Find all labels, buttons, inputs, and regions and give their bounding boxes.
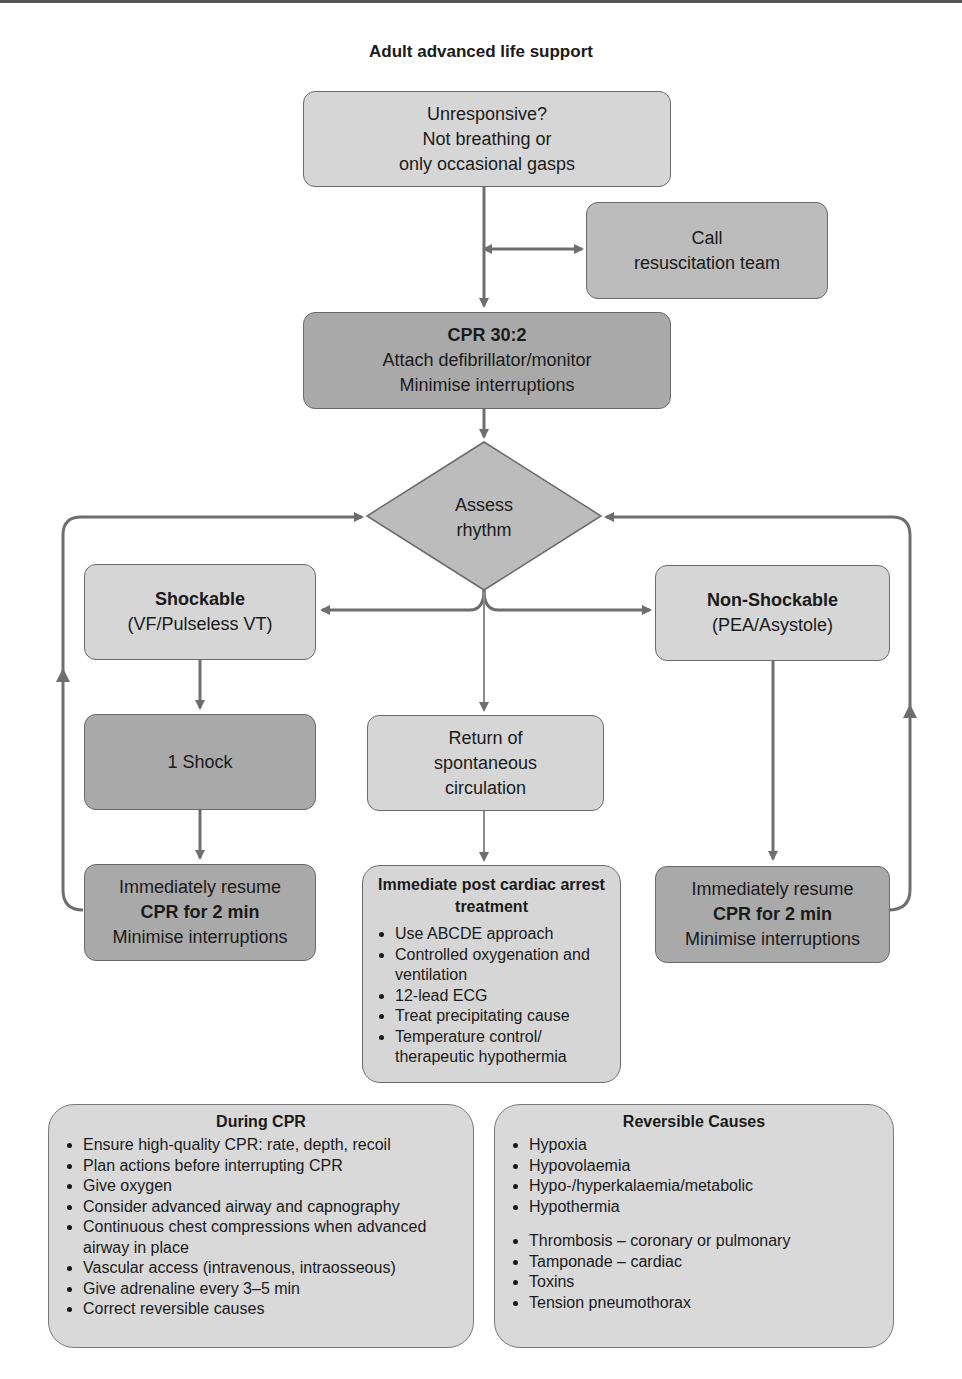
call-team-box: Call resuscitation team (586, 202, 828, 299)
list-item: Hypoxia (529, 1135, 881, 1156)
assess-rhythm-label: Assess rhythm (424, 493, 544, 543)
cpr-heading: CPR 30:2 (447, 323, 526, 348)
list-item: Consider advanced airway and capnography (83, 1197, 461, 1218)
shockable-sub: (VF/Pulseless VT) (127, 612, 272, 637)
unresponsive-line-3: only occasional gasps (399, 152, 575, 177)
call-team-line-1: Call (691, 226, 722, 251)
assess-line-1: Assess (424, 493, 544, 518)
cpr-line-1: Attach defibrillator/monitor (382, 348, 591, 373)
list-item: Use ABCDE approach (395, 924, 610, 945)
rosc-line-1: Return of (448, 726, 522, 751)
list-item: Give adrenaline every 3–5 min (83, 1279, 461, 1300)
assess-line-2: rhythm (424, 518, 544, 543)
list-item: Tension pneumothorax (529, 1293, 881, 1314)
list-item: Give oxygen (83, 1176, 461, 1197)
list-item: Vascular access (intravenous, intraosseo… (83, 1258, 461, 1279)
unresponsive-line-1: Unresponsive? (427, 102, 547, 127)
list-item: Temperature control/ therapeutic hypothe… (395, 1027, 610, 1068)
during-cpr-list: Ensure high-quality CPR: rate, depth, re… (61, 1135, 461, 1320)
resume-right-line-1: Immediately resume (691, 877, 853, 902)
unresponsive-box: Unresponsive? Not breathing or only occa… (303, 91, 671, 187)
non-shockable-heading: Non-Shockable (707, 588, 838, 613)
list-item: Toxins (529, 1272, 881, 1293)
post-arrest-list: Use ABCDE approach Controlled oxygenatio… (373, 924, 610, 1068)
list-item: Hypovolaemia (529, 1156, 881, 1177)
resume-left-heading: CPR for 2 min (140, 900, 259, 925)
resume-cpr-right-box: Immediately resume CPR for 2 min Minimis… (655, 866, 890, 963)
list-item: Treat precipitating cause (395, 1006, 610, 1027)
non-shockable-box: Non-Shockable (PEA/Asystole) (655, 565, 890, 661)
list-item: Continuous chest compressions when advan… (83, 1217, 461, 1258)
resume-left-line-3: Minimise interruptions (112, 925, 287, 950)
list-item: Thrombosis – coronary or pulmonary (529, 1231, 881, 1252)
shock-box: 1 Shock (84, 714, 316, 810)
list-item: Correct reversible causes (83, 1299, 461, 1320)
rosc-line-2: spontaneous (434, 751, 537, 776)
list-item: Controlled oxygenation and ventilation (395, 945, 610, 986)
post-arrest-box: Immediate post cardiac arrest treatment … (362, 865, 621, 1083)
list-item: Plan actions before interrupting CPR (83, 1156, 461, 1177)
rosc-line-3: circulation (445, 776, 526, 801)
list-item: Ensure high-quality CPR: rate, depth, re… (83, 1135, 461, 1156)
during-cpr-box: During CPR Ensure high-quality CPR: rate… (48, 1104, 474, 1348)
reversible-causes-box: Reversible Causes Hypoxia Hypovolaemia H… (494, 1104, 894, 1348)
shockable-heading: Shockable (155, 587, 245, 612)
list-spacer (529, 1217, 881, 1231)
cpr-line-2: Minimise interruptions (399, 373, 574, 398)
resume-right-line-3: Minimise interruptions (685, 927, 860, 952)
reversible-causes-list: Hypoxia Hypovolaemia Hypo-/hyperkalaemia… (507, 1135, 881, 1313)
resume-cpr-left-box: Immediately resume CPR for 2 min Minimis… (84, 864, 316, 961)
post-arrest-heading: Immediate post cardiac arrest treatment (373, 874, 610, 918)
resume-left-line-1: Immediately resume (119, 875, 281, 900)
list-item: Tamponade – cardiac (529, 1252, 881, 1273)
during-cpr-heading: During CPR (61, 1113, 461, 1131)
call-team-line-2: resuscitation team (634, 251, 780, 276)
resume-right-heading: CPR for 2 min (713, 902, 832, 927)
cpr-box: CPR 30:2 Attach defibrillator/monitor Mi… (303, 312, 671, 409)
non-shockable-sub: (PEA/Asystole) (712, 613, 833, 638)
list-item: 12-lead ECG (395, 986, 610, 1007)
rosc-box: Return of spontaneous circulation (367, 715, 604, 811)
unresponsive-line-2: Not breathing or (422, 127, 551, 152)
list-item: Hypo-/hyperkalaemia/metabolic (529, 1176, 881, 1197)
shock-label: 1 Shock (167, 750, 232, 775)
list-item: Hypothermia (529, 1197, 881, 1218)
shockable-box: Shockable (VF/Pulseless VT) (84, 564, 316, 660)
reversible-causes-heading: Reversible Causes (507, 1113, 881, 1131)
